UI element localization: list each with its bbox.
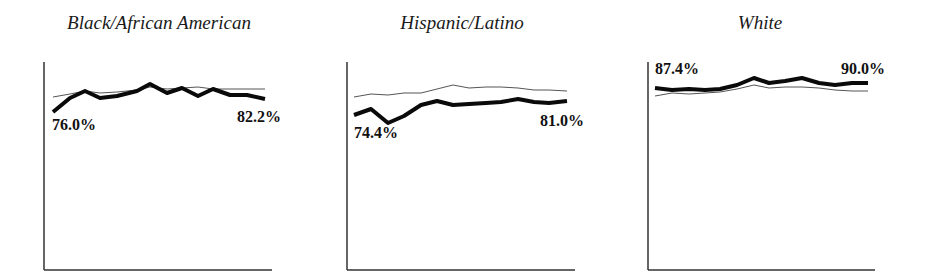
panel-2-thin-line	[354, 85, 567, 97]
panel-3-thick-line	[655, 78, 868, 90]
panel-3-start-label: 87.4%	[655, 60, 699, 78]
charts-canvas	[0, 0, 933, 280]
panel-2-start-label: 74.4%	[354, 124, 398, 142]
panel-3-end-label: 90.0%	[841, 60, 885, 78]
panel-2-axes	[347, 62, 575, 270]
panel-2-thick-line	[354, 99, 567, 123]
panel-1-start-label: 76.0%	[52, 116, 96, 134]
panel-1-end-label: 82.2%	[237, 108, 281, 126]
panel-2-end-label: 81.0%	[540, 112, 584, 130]
panel-1-thick-line	[53, 84, 265, 112]
